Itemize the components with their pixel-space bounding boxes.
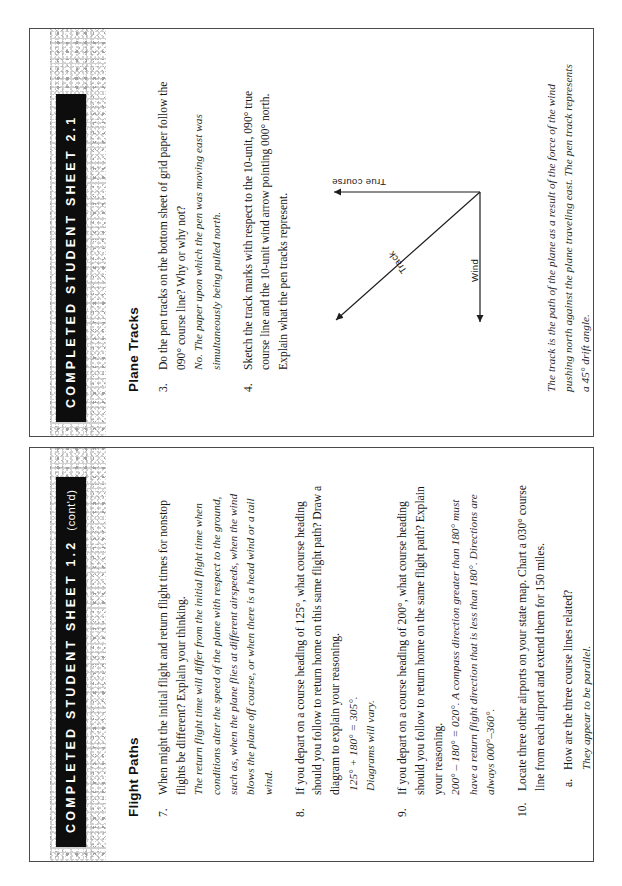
question-answer-block: The track is the path of the plane as a …	[543, 63, 594, 392]
subquestion-letter: a.	[560, 770, 594, 787]
subquestion-answer: They appear to be parallel.	[578, 590, 594, 770]
sheet-title-bar: COMPLETED STUDENT SHEET 2.1	[56, 94, 86, 422]
question-answer: The return flight time will differ from …	[190, 482, 277, 795]
page-sheet-2-1: COMPLETED STUDENT SHEET 2.1 Plane Tracks…	[29, 28, 594, 437]
question-text: Do the pen tracks on the bottom sheet of…	[155, 63, 190, 370]
question-text: Locate three other airports on your stat…	[514, 482, 549, 791]
question-text: If you depart on a course heading of 200…	[394, 482, 447, 795]
question-item: 9. If you depart on a course heading of …	[394, 482, 499, 817]
wind-label: Wind	[469, 259, 480, 282]
sheet-title-text: COMPLETED STUDENT SHEET 2.1	[64, 115, 78, 408]
question-text: If you depart on a course heading of 125…	[292, 482, 345, 795]
question-item: 10. Locate three other airports on your …	[514, 482, 594, 817]
question-answer: No. The paper upon which the pen was mov…	[190, 63, 225, 370]
question-text: Sketch the track marks with respect to t…	[240, 63, 293, 370]
question-number: 7.	[155, 795, 277, 817]
question-number: 9.	[394, 795, 499, 817]
header-band: COMPLETED STUDENT SHEET 2.1	[50, 29, 106, 436]
track-arrow	[336, 192, 480, 320]
question-item: 8. If you depart on a course heading of …	[292, 482, 379, 817]
true-course-label: True course	[332, 177, 386, 188]
sheet-title-bar: COMPLETED STUDENT SHEET 1.2 (cont'd)	[56, 477, 86, 847]
question-number: 4.	[240, 370, 293, 392]
question-answer: The track is the path of the plane as a …	[543, 63, 594, 392]
question-answer: 125° + 180° = 305°.	[345, 482, 362, 791]
subquestion-text: How are the three course lines related?	[560, 590, 578, 770]
question-number: 10.	[514, 791, 594, 817]
sheet-title-suffix: (cont'd)	[65, 489, 77, 530]
question-number: 3.	[155, 370, 225, 392]
page-body: Flight Paths 7. When might the initial f…	[126, 482, 594, 817]
page-sheet-1-2: COMPLETED STUDENT SHEET 1.2 (cont'd) Fli…	[29, 447, 594, 862]
page-body: Plane Tracks 3. Do the pen tracks on the…	[126, 63, 594, 392]
question-answer-secondary: Diagrams will vary.	[362, 482, 379, 791]
header-band: COMPLETED STUDENT SHEET 1.2 (cont'd)	[50, 448, 106, 861]
question-item: 3. Do the pen tracks on the bottom sheet…	[155, 63, 225, 392]
question-item: 7. When might the initial flight and ret…	[155, 482, 277, 817]
question-number: 8.	[292, 795, 379, 817]
question-item: 4. Sketch the track marks with respect t…	[240, 63, 293, 392]
section-title: Plane Tracks	[126, 63, 141, 392]
scanned-spread: COMPLETED STUDENT SHEET 2.1 Plane Tracks…	[0, 0, 622, 886]
wind-triangle-svg	[308, 40, 513, 340]
section-title: Flight Paths	[126, 482, 141, 817]
question-answer: 200° – 180° = 020°. A compass direction …	[447, 482, 499, 795]
subquestion-item: a. How are the three course lines relate…	[560, 482, 594, 787]
sheet-title-text: COMPLETED STUDENT SHEET 1.2	[64, 540, 78, 833]
question-text: When might the initial flight and return…	[155, 482, 190, 795]
wind-triangle-diagram: True course Wind Track	[308, 40, 513, 340]
